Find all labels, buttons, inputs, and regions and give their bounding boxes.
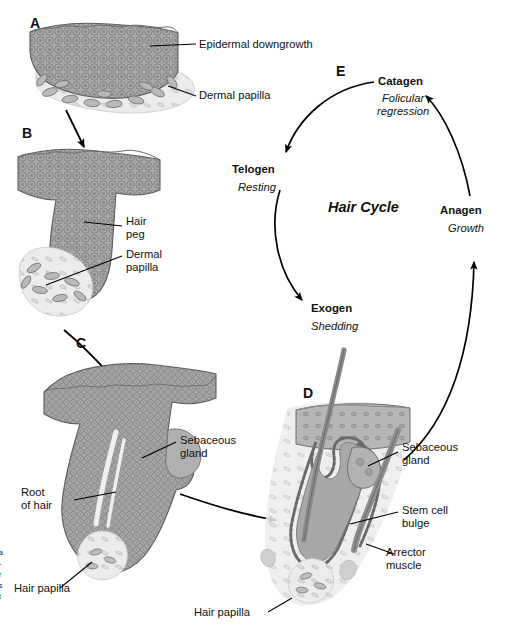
edge-caption-line-4: s: [0, 581, 3, 590]
label-dermal-papilla-a: Dermal papilla: [199, 89, 271, 102]
label-epidermal-downgrowth: Epidermal downgrowth: [199, 38, 313, 51]
label-dermal-papilla-b: Dermal papilla: [126, 248, 162, 273]
arrow-telogen-to-exogen: [275, 190, 302, 300]
label-hair-peg: Hair peg: [126, 215, 147, 240]
panel-letter-e: E: [336, 64, 346, 80]
edge-caption-line-5: t: [0, 592, 1, 601]
edge-caption-line-2: -: [0, 559, 1, 568]
label-sebaceous-gland-c: Sebaceous gland: [180, 434, 236, 459]
cycle-stage-exogen: Exogen: [311, 302, 352, 315]
label-sebaceous-gland-d: Sebaceous gland: [402, 441, 458, 466]
edge-caption-line-1: a: [0, 548, 3, 557]
hair-cycle-title: Hair Cycle: [328, 199, 399, 215]
cycle-subtitle-telogen: Resting: [238, 181, 276, 194]
label-root-of-hair: Root of hair: [21, 486, 52, 511]
cycle-stage-anagen: Anagen: [440, 204, 482, 217]
label-hair-papilla-c: Hair papilla: [14, 582, 70, 595]
cycle-subtitle-exogen: Shedding: [311, 320, 358, 333]
figure-canvas: A B C D E Epidermal downgrowth Dermal pa…: [0, 0, 507, 632]
cycle-subtitle-catagen: Folicular regression: [377, 92, 429, 117]
label-arrector-muscle: Arrector muscle: [386, 546, 426, 571]
panel-c-illustration: [44, 364, 216, 588]
arrow-c-to-d: [180, 494, 276, 520]
cycle-subtitle-anagen: Growth: [448, 222, 484, 235]
panel-a-illustration: [30, 23, 196, 113]
panel-letter-d: D: [303, 386, 313, 402]
arrow-a-to-b: [66, 110, 84, 147]
panel-d-illustration: [259, 350, 410, 612]
panel-letter-c: C: [76, 336, 86, 352]
panel-letter-a: A: [30, 16, 40, 32]
hair-cycle-arrows: [275, 82, 470, 300]
arrow-d-to-anagen: [404, 262, 474, 460]
arrow-anagen-to-catagen: [426, 96, 470, 196]
label-stem-cell-bulge: Stem cell bulge: [402, 504, 448, 529]
panel-letter-b: B: [22, 126, 32, 142]
label-hair-papilla-d: Hair papilla: [194, 606, 250, 619]
edge-caption-line-3: r: [0, 570, 1, 579]
cycle-stage-catagen: Catagen: [378, 75, 423, 88]
arrow-catagen-to-telogen: [286, 82, 374, 152]
cycle-stage-telogen: Telogen: [232, 163, 275, 176]
